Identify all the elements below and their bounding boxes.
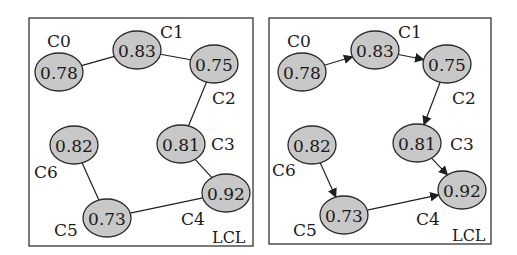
node-c3: 0.81C3 (393, 124, 474, 162)
node-c0: 0.78C0 (278, 31, 326, 91)
node-label: C5 (54, 220, 78, 240)
node-label: C3 (211, 134, 235, 154)
node-c1: 0.83C1 (351, 22, 422, 69)
directed-edge-c1-c2 (398, 55, 423, 60)
edge-c0-c1 (82, 56, 115, 65)
node-label: C0 (47, 31, 71, 51)
node-value: 0.78 (283, 63, 321, 83)
node-value: 0.81 (162, 135, 200, 155)
node-c4: 0.92C4 (416, 171, 486, 229)
node-value: 0.83 (356, 41, 394, 61)
node-label: C4 (181, 209, 205, 229)
edge-c3-c4 (195, 159, 212, 177)
node-value: 0.82 (293, 136, 331, 156)
node-value: 0.83 (118, 41, 156, 61)
node-c5: 0.73C5 (54, 199, 131, 240)
directed-edge-c2-c3 (424, 82, 440, 125)
node-value: 0.81 (398, 134, 436, 154)
node-value: 0.75 (428, 55, 466, 75)
node-c3: 0.81C3 (157, 125, 235, 163)
panel-directed-graph: 0.78C00.83C10.75C20.81C30.92C40.73C50.82… (269, 18, 491, 245)
node-label: C6 (272, 160, 296, 180)
edge-c1-c2 (160, 54, 190, 59)
panel-tag-lcl: LCL (452, 226, 486, 245)
node-value: 0.75 (195, 55, 233, 75)
node-value: 0.78 (40, 63, 78, 83)
node-value: 0.73 (88, 209, 126, 229)
diagram-figure: 0.78C00.83C10.75C20.81C30.92C40.73C50.82… (0, 0, 517, 255)
node-c6: 0.82C6 (34, 126, 98, 182)
node-label: C1 (160, 22, 184, 42)
node-value: 0.92 (443, 181, 481, 201)
node-label: C1 (398, 22, 422, 42)
node-label: C2 (212, 88, 236, 108)
edge-c2-c3 (188, 82, 206, 126)
node-label: C5 (293, 220, 317, 240)
node-label: C6 (34, 162, 58, 182)
node-c5: 0.73C5 (293, 196, 368, 240)
node-c2: 0.75C2 (190, 45, 238, 108)
directed-edge-c5-c4 (367, 195, 439, 210)
node-c2: 0.75C2 (423, 45, 476, 108)
node-value: 0.82 (55, 136, 93, 156)
node-c4: 0.92C4 (181, 174, 250, 229)
edge-c5-c6 (82, 163, 99, 200)
node-label: C3 (450, 134, 474, 154)
node-c6: 0.82C6 (272, 126, 336, 180)
diagram-canvas: 0.78C00.83C10.75C20.81C30.92C40.73C50.82… (0, 0, 517, 255)
node-c1: 0.83C1 (113, 22, 184, 69)
node-c0: 0.78C0 (35, 31, 83, 91)
directed-edge-c3-c4 (431, 158, 447, 175)
node-label: C0 (287, 31, 311, 51)
node-label: C2 (452, 88, 476, 108)
panel-tag-lcl: LCL (212, 228, 246, 247)
node-label: C4 (416, 209, 440, 229)
node-value: 0.73 (325, 206, 363, 226)
directed-edge-c6-c5 (320, 163, 336, 197)
node-value: 0.92 (207, 184, 245, 204)
panel-undirected-graph: 0.78C00.83C10.75C20.81C30.92C40.73C50.82… (29, 18, 253, 247)
directed-edge-c0-c1 (324, 57, 352, 65)
